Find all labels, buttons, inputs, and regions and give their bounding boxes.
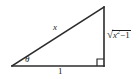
hypotenuse-label: x [53,23,57,32]
right-angle-marker-icon [97,59,104,66]
opposite-side-label: √ x2−1 [107,30,131,40]
radicand-expression: x2−1 [112,30,131,40]
radicand-constant: 1 [125,30,130,40]
angle-theta-label: θ [25,55,29,64]
right-triangle-figure: x 1 θ √ x2−1 [0,0,140,79]
base-label: 1 [58,67,63,76]
